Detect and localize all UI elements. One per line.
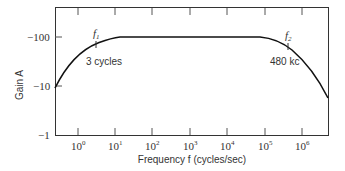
svg-text:106: 106: [295, 139, 310, 152]
x-axis-label: Frequency f (cycles/sec): [138, 154, 246, 165]
x-tick-labels: 100 101 102 103 104 105 106: [71, 139, 310, 152]
y-axis-label: Gain A: [14, 70, 25, 100]
svg-text:103: 103: [183, 139, 198, 152]
y-tick-100: −100: [27, 31, 50, 43]
f2-value: 480 kc: [270, 56, 299, 67]
y-tick-1: −1: [38, 129, 50, 141]
svg-text:104: 104: [220, 139, 235, 152]
svg-text:105: 105: [258, 139, 273, 152]
f1-value: 3 cycles: [86, 56, 122, 67]
svg-text:102: 102: [145, 139, 160, 152]
svg-text:100: 100: [71, 139, 86, 152]
f2-label: f2: [285, 29, 292, 43]
plot-frame: [56, 8, 329, 136]
f1-label: f1: [93, 27, 100, 41]
x-ticks: [78, 8, 302, 135]
y-tick-10: −10: [33, 80, 51, 92]
gain-frequency-chart: −100 −10 −1 Gain A 100 101 102 103 104 1…: [0, 0, 345, 171]
svg-text:101: 101: [108, 139, 123, 152]
